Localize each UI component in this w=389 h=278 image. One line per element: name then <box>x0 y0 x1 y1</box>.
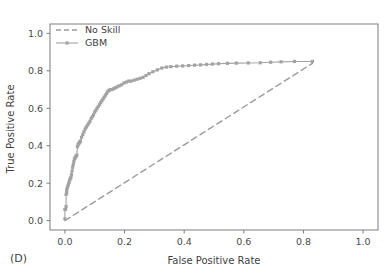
series-marker <box>72 160 75 163</box>
series-marker <box>217 62 220 65</box>
series-marker <box>156 68 159 71</box>
y-tick-label: 0.0 <box>28 215 43 226</box>
series-marker <box>81 133 84 136</box>
roc-plot-svg: 0.00.20.40.60.81.0 0.00.20.40.60.81.0 No… <box>0 0 389 278</box>
y-axis-title: True Positive Rate <box>5 84 16 174</box>
series-marker <box>75 153 78 156</box>
series-marker <box>187 64 190 67</box>
series-marker <box>63 217 66 220</box>
series-marker <box>169 65 172 68</box>
series-marker <box>226 62 229 65</box>
series-marker <box>70 169 73 172</box>
series-marker <box>88 120 91 123</box>
series-marker <box>82 130 85 133</box>
legend-label-no-skill: No Skill <box>85 24 120 35</box>
data-series-group <box>63 60 314 221</box>
y-tick-label: 0.4 <box>28 140 43 151</box>
chart-legend: No SkillGBM <box>56 24 120 48</box>
x-tick-label: 1.0 <box>356 236 371 247</box>
series-marker <box>151 70 154 73</box>
series-marker <box>141 76 144 79</box>
series-marker <box>65 191 68 194</box>
x-tick-label: 0.0 <box>57 236 72 247</box>
series-marker <box>235 62 238 65</box>
series-marker <box>135 78 138 81</box>
series-marker <box>144 74 147 77</box>
series-marker <box>293 60 296 63</box>
series-marker <box>165 65 168 68</box>
y-tick-label: 0.6 <box>28 103 43 114</box>
series-marker <box>279 60 282 63</box>
series-marker <box>71 166 74 169</box>
series-marker <box>92 113 95 116</box>
series-marker <box>311 60 314 63</box>
series-marker <box>130 80 133 83</box>
panel-label: (D) <box>10 252 27 265</box>
series-marker <box>132 79 135 82</box>
series-line-gbm <box>65 61 312 218</box>
x-tick-label: 0.4 <box>177 236 192 247</box>
y-tick-label: 1.0 <box>28 28 43 39</box>
series-marker <box>160 66 163 69</box>
x-axis-title: False Positive Rate <box>168 255 261 266</box>
series-marker <box>79 139 82 142</box>
legend-marker <box>65 41 68 44</box>
series-marker <box>205 63 208 66</box>
roc-chart-figure: 0.00.20.40.60.81.0 0.00.20.40.60.81.0 No… <box>0 0 389 278</box>
series-marker <box>70 173 73 176</box>
series-marker <box>69 176 72 179</box>
series-marker <box>247 61 250 64</box>
legend-label-gbm: GBM <box>85 37 107 48</box>
series-marker <box>80 136 83 139</box>
series-marker <box>199 63 202 66</box>
series-marker <box>72 163 75 166</box>
series-marker <box>181 64 184 67</box>
series-marker <box>193 64 196 67</box>
x-tick-label: 0.6 <box>236 236 251 247</box>
series-marker <box>147 72 150 75</box>
x-tick-label: 0.2 <box>117 236 132 247</box>
series-marker <box>211 62 214 65</box>
series-marker <box>259 61 262 64</box>
series-marker <box>138 77 141 80</box>
series-line-no-skill <box>65 63 312 220</box>
y-tick-label: 0.8 <box>28 65 43 76</box>
series-marker <box>65 205 68 208</box>
y-tick-label: 0.2 <box>28 178 43 189</box>
series-marker <box>64 208 67 211</box>
series-marker <box>175 65 178 68</box>
x-tick-label: 0.8 <box>296 236 311 247</box>
x-axis-ticks: 0.00.20.40.60.81.0 <box>57 230 370 247</box>
series-marker <box>269 61 272 64</box>
y-axis-ticks: 0.00.20.40.60.81.0 <box>28 28 50 226</box>
